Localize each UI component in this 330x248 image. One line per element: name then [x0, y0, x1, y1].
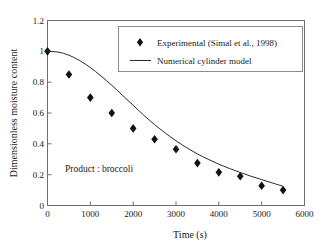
y-tick-label: 0.8: [33, 77, 45, 87]
legend-label-model: Numerical cylinder model: [157, 56, 252, 66]
y-tick-label: 0.6: [33, 108, 45, 118]
y-tick-labels: 1.2 1 0.8 0.6 0.4 0.2 0: [33, 16, 45, 211]
y-tick-label: 0.4: [33, 139, 45, 149]
legend-label-experimental: Experimental (Simal et al., 1998): [157, 38, 277, 48]
plot-annotation: Product : broccoli: [65, 164, 133, 174]
data-point-marker: [173, 145, 180, 154]
x-tick-label: 6000: [296, 209, 315, 219]
data-point-marker: [194, 159, 201, 168]
x-tick-label: 5000: [253, 209, 272, 219]
x-tick-labels: 0 1000 2000 3000 4000 5000 6000: [45, 209, 314, 219]
data-point-marker: [280, 186, 287, 195]
x-tick-label: 0: [45, 209, 50, 219]
chart-plot-area: 1.2 1 0.8 0.6 0.4 0.2 0 0 1000 2000 3000…: [0, 0, 330, 248]
data-point-marker: [258, 181, 265, 190]
chart-figure: 1.2 1 0.8 0.6 0.4 0.2 0 0 1000 2000 3000…: [0, 0, 330, 248]
data-point-marker: [108, 109, 115, 118]
y-tick-label: 1.2: [33, 16, 44, 26]
y-axis-title: Dimensionless moisture content: [8, 49, 19, 178]
y-tick-label: 1: [40, 46, 45, 56]
data-point-marker: [87, 93, 94, 102]
x-tick-label: 3000: [167, 209, 186, 219]
data-point-marker: [151, 135, 158, 144]
x-tick-label: 1000: [81, 209, 100, 219]
x-tick-label: 4000: [210, 209, 229, 219]
chart-legend: Experimental (Simal et al., 1998) Numeri…: [119, 27, 303, 72]
data-point-marker: [130, 124, 137, 133]
data-point-marker: [66, 70, 73, 79]
y-tick-label: 0.2: [33, 170, 44, 180]
x-axis-ticks: [48, 202, 305, 206]
x-tick-label: 2000: [124, 209, 143, 219]
data-point-marker: [216, 168, 223, 177]
y-tick-label: 0: [40, 201, 45, 211]
x-axis-title: Time (s): [173, 229, 207, 241]
